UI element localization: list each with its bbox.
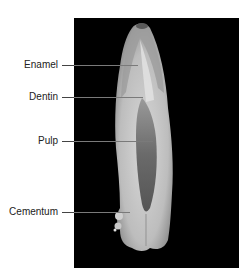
leader-line-pulp bbox=[62, 141, 74, 142]
leader-line-dentin-inner bbox=[74, 97, 143, 98]
label-dentin: Dentin bbox=[0, 91, 58, 103]
leader-line-enamel bbox=[62, 65, 74, 66]
label-enamel: Enamel bbox=[0, 59, 58, 71]
leader-line-pulp-inner bbox=[74, 141, 153, 142]
tooth-section-image bbox=[74, 18, 239, 268]
leader-line-cementum-inner bbox=[74, 212, 130, 213]
label-pulp: Pulp bbox=[0, 135, 58, 147]
label-cementum: Cementum bbox=[0, 206, 58, 218]
leader-line-enamel-inner bbox=[74, 65, 138, 66]
leader-line-cementum bbox=[62, 212, 74, 213]
leader-line-dentin bbox=[62, 97, 74, 98]
